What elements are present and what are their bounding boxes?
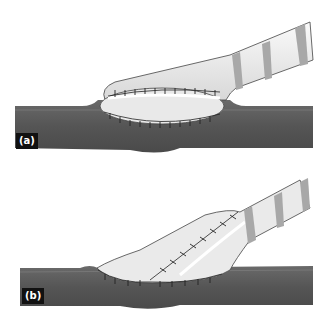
panel-label-b: (b) — [22, 288, 44, 304]
anastomosis-illustration-a — [0, 0, 328, 160]
panel-b: (b) — [0, 160, 328, 325]
panel-a: (a) — [0, 0, 328, 160]
anastomosis-illustration-b — [0, 160, 328, 325]
panel-label-a: (a) — [16, 133, 38, 149]
